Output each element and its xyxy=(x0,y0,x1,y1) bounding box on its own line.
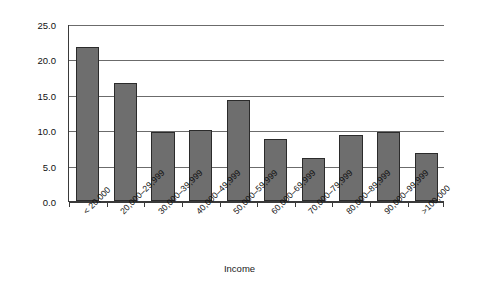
bar xyxy=(189,130,212,202)
y-tick-label: 0.0 xyxy=(43,197,56,208)
bar xyxy=(114,83,137,201)
x-tick-mark xyxy=(220,202,221,207)
bar xyxy=(339,135,362,201)
x-tick-mark xyxy=(332,202,333,207)
x-axis-title: Income xyxy=(0,263,479,274)
y-axis-tick-labels: 0.05.010.015.020.025.0 xyxy=(0,0,64,288)
bar xyxy=(302,158,325,201)
y-tick-label: 15.0 xyxy=(38,90,57,101)
x-tick-mark xyxy=(408,202,409,207)
x-tick-mark xyxy=(443,202,444,207)
x-tick-mark xyxy=(69,202,70,207)
x-axis-title-label: Income xyxy=(224,263,255,274)
plot-area xyxy=(68,25,444,202)
bar xyxy=(227,100,250,201)
bars-layer xyxy=(69,25,444,201)
x-tick-mark xyxy=(370,202,371,207)
bar-chart: Percentage 0.05.010.015.020.025.0 < 20,0… xyxy=(0,0,479,288)
bar xyxy=(76,47,99,201)
x-tick-mark xyxy=(107,202,108,207)
x-tick-mark xyxy=(257,202,258,207)
x-tick-mark xyxy=(295,202,296,207)
y-tick-label: 10.0 xyxy=(38,126,57,137)
bar xyxy=(377,132,400,201)
x-tick-mark xyxy=(182,202,183,207)
bar xyxy=(415,153,438,201)
x-tick-mark xyxy=(144,202,145,207)
y-tick-label: 5.0 xyxy=(43,161,56,172)
bar xyxy=(264,139,287,201)
y-tick-label: 20.0 xyxy=(38,55,57,66)
y-tick-label: 25.0 xyxy=(38,20,57,31)
bar xyxy=(151,132,174,201)
